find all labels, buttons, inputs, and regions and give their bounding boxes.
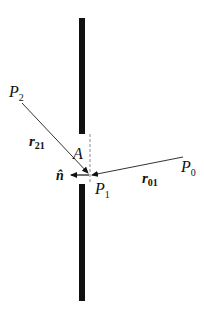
- ray-r01: [92, 157, 183, 175]
- screen-bottom: [79, 184, 85, 301]
- screen-top: [79, 18, 85, 134]
- diffraction-diagram: P2 r21 A n̂ P1 r01 P0: [0, 0, 204, 318]
- label-p0: P0: [180, 158, 196, 178]
- label-p2: P2: [8, 83, 24, 103]
- label-normal-n-hat: n̂: [56, 168, 64, 183]
- label-r21: r21: [29, 133, 45, 151]
- label-p1: P1: [94, 180, 110, 200]
- label-aperture-a: A: [72, 145, 83, 162]
- label-r01: r01: [142, 170, 158, 188]
